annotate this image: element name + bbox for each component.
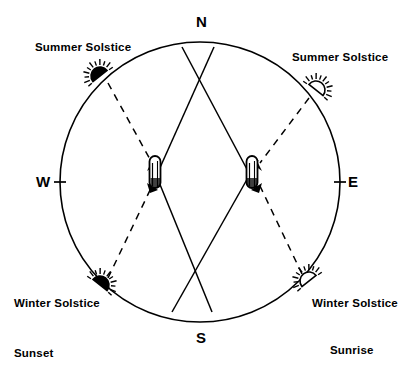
sightline-east-stone-to-sw bbox=[172, 160, 258, 312]
sun-ray bbox=[296, 272, 300, 276]
label-winter-solstice-sunrise: Winter Solstice bbox=[312, 298, 398, 310]
sun-ray bbox=[106, 62, 112, 67]
sun-ray bbox=[89, 63, 93, 68]
alignment-winter-sunrise-to-stone bbox=[260, 186, 302, 274]
cardinal-label-east: E bbox=[348, 174, 358, 189]
label-sunset: Sunset bbox=[14, 348, 54, 360]
label-sunrise: Sunrise bbox=[330, 345, 374, 357]
cardinal-label-west: W bbox=[36, 174, 50, 189]
sightlines-group bbox=[150, 47, 258, 312]
sun-winter-solstice-sunrise bbox=[285, 257, 322, 292]
sun-ray bbox=[111, 284, 115, 288]
sun-ray bbox=[94, 61, 98, 65]
sun-ray bbox=[102, 61, 106, 65]
sun-ray bbox=[326, 93, 332, 98]
alignment-summer-sunrise-to-stone bbox=[260, 98, 309, 163]
sun-ray bbox=[303, 266, 307, 270]
sun-winter-solstice-sunset bbox=[86, 261, 123, 296]
sun-ray bbox=[303, 81, 307, 84]
sun-ray bbox=[97, 268, 103, 274]
sun-ray bbox=[305, 76, 311, 81]
sun-summer-solstice-sunrise bbox=[302, 66, 339, 101]
sun-ray bbox=[97, 59, 103, 65]
sun-ray bbox=[313, 73, 319, 79]
sun-ray bbox=[102, 270, 106, 274]
sun-disc bbox=[309, 77, 329, 95]
alignment-summer-sunset-to-stone bbox=[108, 83, 152, 163]
sun-ray bbox=[88, 83, 92, 86]
sun-ray bbox=[292, 274, 298, 280]
label-winter-solstice-sunset: Winter Solstice bbox=[14, 298, 100, 310]
sun-ray bbox=[83, 69, 89, 75]
sun-ray bbox=[109, 276, 113, 280]
label-summer-solstice-sunset: Summer Solstice bbox=[35, 42, 131, 54]
sun-ray bbox=[85, 75, 89, 79]
sun-ray bbox=[318, 272, 322, 275]
sun-ray bbox=[327, 83, 333, 89]
standing-stones-group bbox=[150, 156, 258, 188]
standing-stone-east bbox=[247, 156, 258, 188]
standing-stone-west bbox=[150, 156, 161, 188]
label-summer-solstice-sunrise: Summer Solstice bbox=[292, 52, 388, 64]
sun-ray bbox=[310, 75, 314, 79]
suns-group bbox=[76, 52, 339, 296]
sun-ray bbox=[297, 288, 301, 291]
sun-disc bbox=[296, 268, 316, 286]
sun-ray bbox=[84, 79, 90, 84]
sun-disc bbox=[87, 63, 107, 81]
sun-ray bbox=[109, 67, 113, 70]
cardinal-label-north: N bbox=[196, 14, 207, 29]
sun-ray bbox=[111, 278, 117, 284]
solstice-alignment-diagram: N E S W Summer Solstice Summer Solstice … bbox=[0, 0, 417, 376]
alignment-winter-sunset-to-stone bbox=[108, 186, 152, 278]
sun-ray bbox=[108, 292, 112, 295]
sun-summer-solstice-sunset bbox=[76, 52, 113, 87]
sun-ray bbox=[324, 97, 328, 100]
sun-ray bbox=[323, 77, 327, 82]
sun-ray bbox=[315, 267, 321, 272]
sun-ray bbox=[318, 75, 322, 79]
cardinal-label-south: S bbox=[196, 330, 206, 345]
sun-ray bbox=[87, 276, 91, 279]
sun-ray bbox=[327, 89, 331, 93]
sun-ray bbox=[87, 67, 91, 71]
sun-ray bbox=[325, 81, 329, 85]
